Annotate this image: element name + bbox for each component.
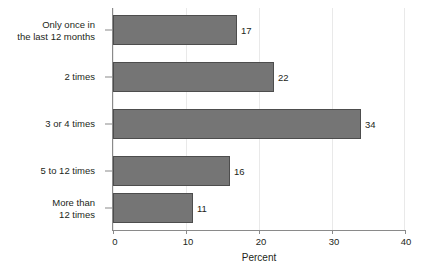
x-tick-label-20: 20 [256,236,267,247]
bar-value-4: 11 [197,203,207,214]
bar-2[interactable] [113,109,361,139]
x-axis-title-text: Percent [242,252,276,263]
y-tick-0 [105,30,112,31]
bar-0[interactable] [113,15,237,45]
bar-row-2: 3 or 4 times 34 [0,102,430,146]
y-tick-2 [105,124,112,125]
x-tick-label-30: 30 [329,236,340,247]
bar-row-4: More than 12 times 11 [0,186,430,230]
bar-4[interactable] [113,193,193,223]
x-tick-label-40: 40 [401,236,412,247]
bar-value-2: 34 [365,119,376,130]
bar-3[interactable] [113,156,230,186]
category-label-2: 3 or 4 times [45,118,95,130]
x-tick-mark-20 [259,230,260,234]
y-tick-1 [105,77,112,78]
x-tick-label-10: 10 [183,236,194,247]
y-tick-3 [105,171,112,172]
x-tick-mark-30 [332,230,333,234]
bar-row-0: Only once in the last 12 months 17 [0,8,430,52]
bar-value-0: 17 [241,25,252,36]
bar-1[interactable] [113,62,274,92]
x-tick-mark-40 [405,230,406,234]
category-label-4: More than 12 times [52,197,95,220]
bar-row-1: 2 times 22 [0,55,430,99]
category-label-3: 5 to 12 times [41,165,95,177]
bar-value-3: 16 [234,166,245,177]
x-tick-mark-0 [113,230,114,234]
x-tick-label-0: 0 [112,236,117,247]
bar-chart: Only once in the last 12 months 17 2 tim… [0,0,430,277]
y-tick-4 [105,208,112,209]
x-tick-mark-10 [186,230,187,234]
category-label-0: Only once in the last 12 months [17,19,95,42]
x-axis-title: Percent [0,252,430,263]
category-label-1: 2 times [64,71,95,83]
bar-value-1: 22 [278,72,289,83]
